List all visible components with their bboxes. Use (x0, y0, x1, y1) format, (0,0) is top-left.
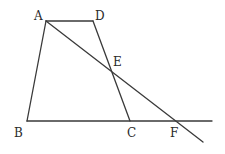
segment-ab (27, 21, 46, 121)
segment-af-extended (46, 21, 203, 142)
label-a: A (33, 9, 43, 23)
label-d: D (95, 9, 105, 23)
geometry-diagram: A D E B C F (0, 0, 225, 154)
label-c: C (127, 126, 136, 140)
label-f: F (170, 126, 178, 140)
label-b: B (14, 126, 23, 140)
label-e: E (113, 55, 122, 69)
